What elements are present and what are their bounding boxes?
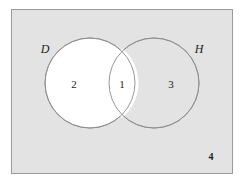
region-count-d-only: 2 — [71, 78, 77, 90]
venn-diagram-canvas: D H 2 1 3 4 — [0, 0, 244, 183]
venn-diagram-figure: D H 2 1 3 4 — [0, 0, 244, 183]
set-label-d: D — [40, 42, 50, 56]
set-label-h: H — [194, 42, 205, 56]
region-count-outside: 4 — [209, 151, 214, 162]
region-count-h-only: 3 — [168, 78, 174, 90]
region-count-intersection: 1 — [119, 78, 125, 90]
